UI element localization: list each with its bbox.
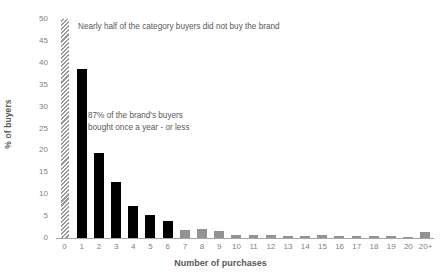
bar-slot xyxy=(193,19,210,238)
y-axis-title: % of buyers xyxy=(0,0,16,248)
bar-3 xyxy=(111,182,121,238)
x-axis-tick: 3 xyxy=(108,240,125,254)
x-axis-tick: 9 xyxy=(211,240,228,254)
bar-chart: % of buyers 05101520253035404550 0123456… xyxy=(0,0,441,278)
bar-0 xyxy=(61,19,69,238)
bar-slot xyxy=(56,19,73,238)
y-axis-tick: 0 xyxy=(44,234,48,242)
bar-slot xyxy=(228,19,245,238)
bar-slot xyxy=(211,19,228,238)
y-axis-tick: 10 xyxy=(39,190,48,198)
x-axis-tick: 13 xyxy=(279,240,296,254)
x-axis-tick: 20 xyxy=(400,240,417,254)
x-axis-title-label: Number of purchases xyxy=(174,258,267,268)
x-axis-tick: 18 xyxy=(365,240,382,254)
bar-slot xyxy=(382,19,399,238)
annotation-brand-buyers: 87% of the brand's buyers bought once a … xyxy=(88,110,190,134)
x-axis-tick: 15 xyxy=(314,240,331,254)
bar-slot xyxy=(331,19,348,238)
x-axis-tick: 7 xyxy=(176,240,193,254)
bar-8 xyxy=(197,229,207,238)
bar-slot xyxy=(314,19,331,238)
x-axis-tick: 1 xyxy=(73,240,90,254)
x-axis-title: Number of purchases xyxy=(0,258,441,268)
y-axis-tick: 25 xyxy=(39,125,48,133)
y-axis-tick: 30 xyxy=(39,103,48,111)
bar-1 xyxy=(77,69,87,238)
x-axis-tick: 16 xyxy=(331,240,348,254)
y-axis-title-label: % of buyers xyxy=(3,99,13,148)
bar-slot xyxy=(348,19,365,238)
bar-slot xyxy=(399,19,416,238)
y-axis-tick: 45 xyxy=(39,37,48,45)
x-axis-tick: 2 xyxy=(90,240,107,254)
y-axis-tick: 50 xyxy=(39,15,48,23)
x-axis-tick: 6 xyxy=(159,240,176,254)
bar-slot xyxy=(245,19,262,238)
bar-7 xyxy=(180,230,190,238)
y-axis-tick-labels: 05101520253035404550 xyxy=(20,19,52,238)
x-axis-tick: 17 xyxy=(348,240,365,254)
y-axis-tick: 20 xyxy=(39,146,48,154)
x-axis-tick: 19 xyxy=(383,240,400,254)
bar-slot xyxy=(417,19,434,238)
bar-6 xyxy=(163,221,173,238)
bar-2 xyxy=(94,153,104,238)
annotation-category-buyers: Nearly half of the category buyers did n… xyxy=(78,21,280,33)
bar-slot xyxy=(296,19,313,238)
x-axis-tick: 14 xyxy=(297,240,314,254)
y-axis-tick: 5 xyxy=(44,212,48,220)
bar-slot xyxy=(279,19,296,238)
bar-5 xyxy=(145,215,155,238)
x-axis-tick: 11 xyxy=(245,240,262,254)
bar-4 xyxy=(128,206,138,238)
x-axis-tick: 12 xyxy=(262,240,279,254)
x-axis-tick: 0 xyxy=(56,240,73,254)
x-axis-tick: 20+ xyxy=(417,240,434,254)
x-axis-tick: 8 xyxy=(194,240,211,254)
x-axis-tick: 4 xyxy=(125,240,142,254)
x-axis-tick-labels: 0123456789101112131415161718192020+ xyxy=(56,240,434,254)
y-axis-tick: 40 xyxy=(39,59,48,67)
x-axis-line xyxy=(56,238,434,239)
y-axis-tick: 15 xyxy=(39,168,48,176)
bar-slot xyxy=(262,19,279,238)
x-axis-tick: 5 xyxy=(142,240,159,254)
y-axis-tick: 35 xyxy=(39,81,48,89)
x-axis-tick: 10 xyxy=(228,240,245,254)
bar-slot xyxy=(365,19,382,238)
